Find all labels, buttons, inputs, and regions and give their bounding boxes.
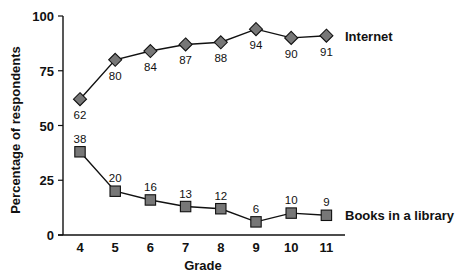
x-tick-label: 4 <box>76 240 84 255</box>
x-tick-label: 7 <box>182 240 189 255</box>
series-name-label: Internet <box>345 29 393 44</box>
series-books-in-a-library: 38201613126109Books in a library <box>74 133 455 227</box>
data-label: 10 <box>285 194 298 206</box>
x-tick-label: 9 <box>252 240 259 255</box>
y-tick-label: 0 <box>47 228 54 243</box>
square-marker <box>75 147 85 157</box>
square-marker <box>180 201 190 211</box>
x-tick-label: 11 <box>320 240 334 255</box>
data-label: 9 <box>323 196 329 208</box>
data-label: 12 <box>214 190 227 202</box>
x-tick-label: 10 <box>284 240 298 255</box>
data-label: 6 <box>253 203 259 215</box>
square-marker <box>251 217 261 227</box>
data-label: 84 <box>144 61 157 73</box>
data-label: 38 <box>74 133 87 145</box>
diamond-marker <box>214 36 227 49</box>
line-chart: 02550751004567891011 6280848788949091Int… <box>0 0 462 279</box>
series-group: 6280848788949091Internet38201613126109Bo… <box>74 23 455 227</box>
square-marker <box>145 195 155 205</box>
data-label: 91 <box>320 46 333 58</box>
x-axis-title: Grade <box>184 258 222 273</box>
data-label: 62 <box>74 109 87 121</box>
y-axis-title: Percentage of respondents <box>8 46 23 214</box>
x-tick-label: 5 <box>112 240 119 255</box>
y-tick-label: 75 <box>40 64 54 79</box>
diamond-marker <box>320 29 333 42</box>
series-internet: 6280848788949091Internet <box>74 23 394 122</box>
diamond-marker <box>179 38 192 51</box>
square-marker <box>216 204 226 214</box>
data-label: 16 <box>144 181 157 193</box>
square-marker <box>110 186 120 196</box>
data-label: 20 <box>109 172 122 184</box>
x-tick-label: 6 <box>147 240 154 255</box>
data-label: 94 <box>250 39 263 51</box>
diamond-marker <box>285 31 298 44</box>
square-marker <box>286 208 296 218</box>
data-label: 88 <box>214 52 227 64</box>
data-label: 80 <box>109 70 122 82</box>
data-label: 87 <box>179 54 192 66</box>
x-tick-label: 8 <box>217 240 224 255</box>
y-tick-label: 100 <box>32 9 54 24</box>
diamond-marker <box>250 23 263 36</box>
diamond-marker <box>144 45 157 58</box>
square-marker <box>321 210 331 220</box>
data-label: 90 <box>285 48 298 60</box>
data-label: 13 <box>179 188 192 200</box>
y-tick-label: 25 <box>40 173 54 188</box>
y-tick-label: 50 <box>40 119 54 134</box>
series-name-label: Books in a library <box>345 208 455 223</box>
